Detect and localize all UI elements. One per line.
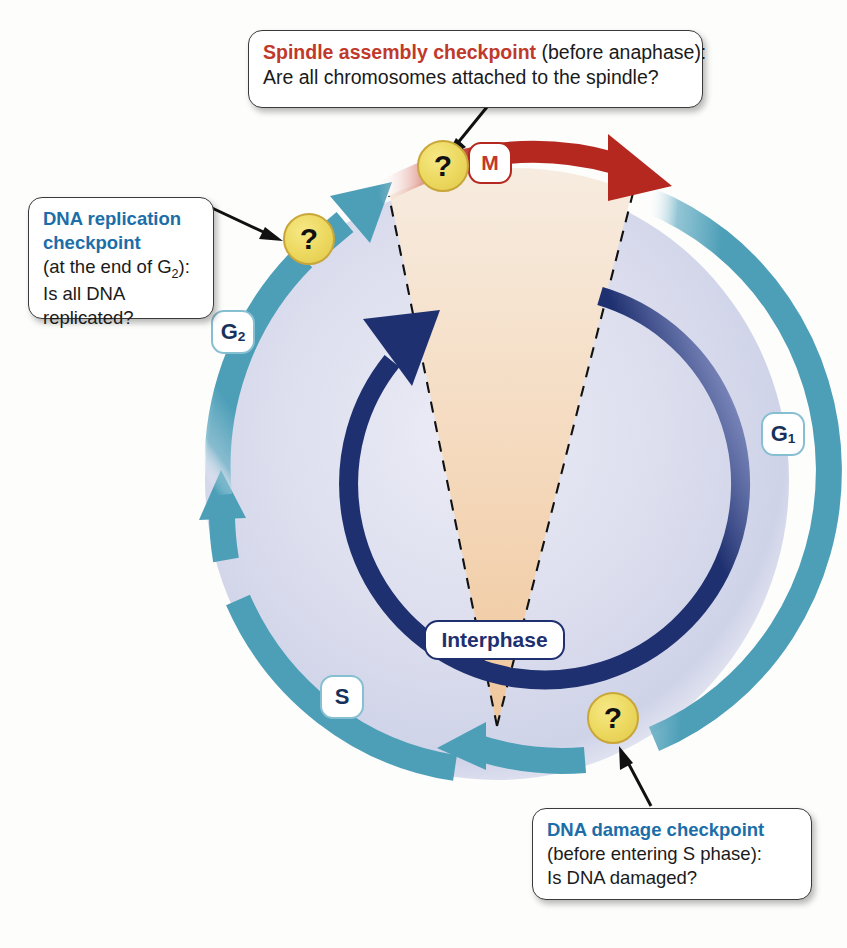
question-mark-glyph: ? [604, 701, 622, 735]
callout-dna-replication-checkpoint: DNA replication checkpoint (at the end o… [28, 197, 214, 319]
callout-replication-qualifier-post: ): [179, 256, 190, 277]
callout-replication-qualifier-pre: (at the end of G [43, 256, 172, 277]
phase-s-letter: S [335, 684, 350, 710]
question-mark-glyph: ? [434, 149, 452, 183]
callout-damage-question: Is DNA damaged? [547, 866, 797, 890]
interphase-text: Interphase [441, 628, 547, 652]
callout-spindle-line1: Spindle assembly checkpoint (before anap… [263, 40, 688, 65]
pointer-arrow-damage [619, 746, 651, 806]
question-mark-glyph: ? [300, 222, 318, 256]
phase-label-g1: G1 [761, 412, 805, 456]
checkpoint-marker-replication: ? [283, 213, 335, 265]
callout-damage-heading: DNA damage checkpoint [547, 818, 797, 842]
interphase-label: Interphase [424, 620, 565, 660]
phase-m-letter: M [481, 151, 499, 175]
callout-damage-qualifier: (before entering S phase): [547, 842, 797, 866]
phase-g2-letter: G [221, 319, 238, 345]
phase-label-s: S [320, 675, 364, 719]
cell-cycle-figure: G1 G2 S M Interphase ? ? ? Spindle assem… [0, 0, 847, 948]
phase-g1-letter: G [771, 421, 788, 447]
checkpoint-marker-spindle: ? [417, 140, 469, 192]
callout-replication-question-line1: Is all DNA [43, 282, 199, 306]
cell-cycle-diagram [0, 0, 847, 948]
callout-spindle-heading: Spindle assembly checkpoint [263, 41, 536, 63]
phase-label-g2: G2 [211, 310, 255, 354]
checkpoint-marker-damage: ? [587, 692, 639, 744]
callout-replication-heading-line1: DNA replication [43, 207, 199, 231]
callout-replication-qualifier: (at the end of G2): [43, 255, 199, 282]
callout-dna-damage-checkpoint: DNA damage checkpoint (before entering S… [532, 808, 812, 900]
callout-replication-qualifier-sub: 2 [172, 267, 179, 281]
pointer-arrow-replication [212, 208, 283, 241]
callout-spindle-question: Are all chromosomes attached to the spin… [263, 65, 688, 90]
phase-label-m: M [468, 142, 512, 184]
callout-replication-heading-line2: checkpoint [43, 231, 199, 255]
callout-spindle-assembly-checkpoint: Spindle assembly checkpoint (before anap… [248, 30, 703, 108]
callout-replication-question-line2: replicated? [43, 306, 199, 330]
callout-spindle-qualifier: (before anaphase): [536, 41, 706, 63]
